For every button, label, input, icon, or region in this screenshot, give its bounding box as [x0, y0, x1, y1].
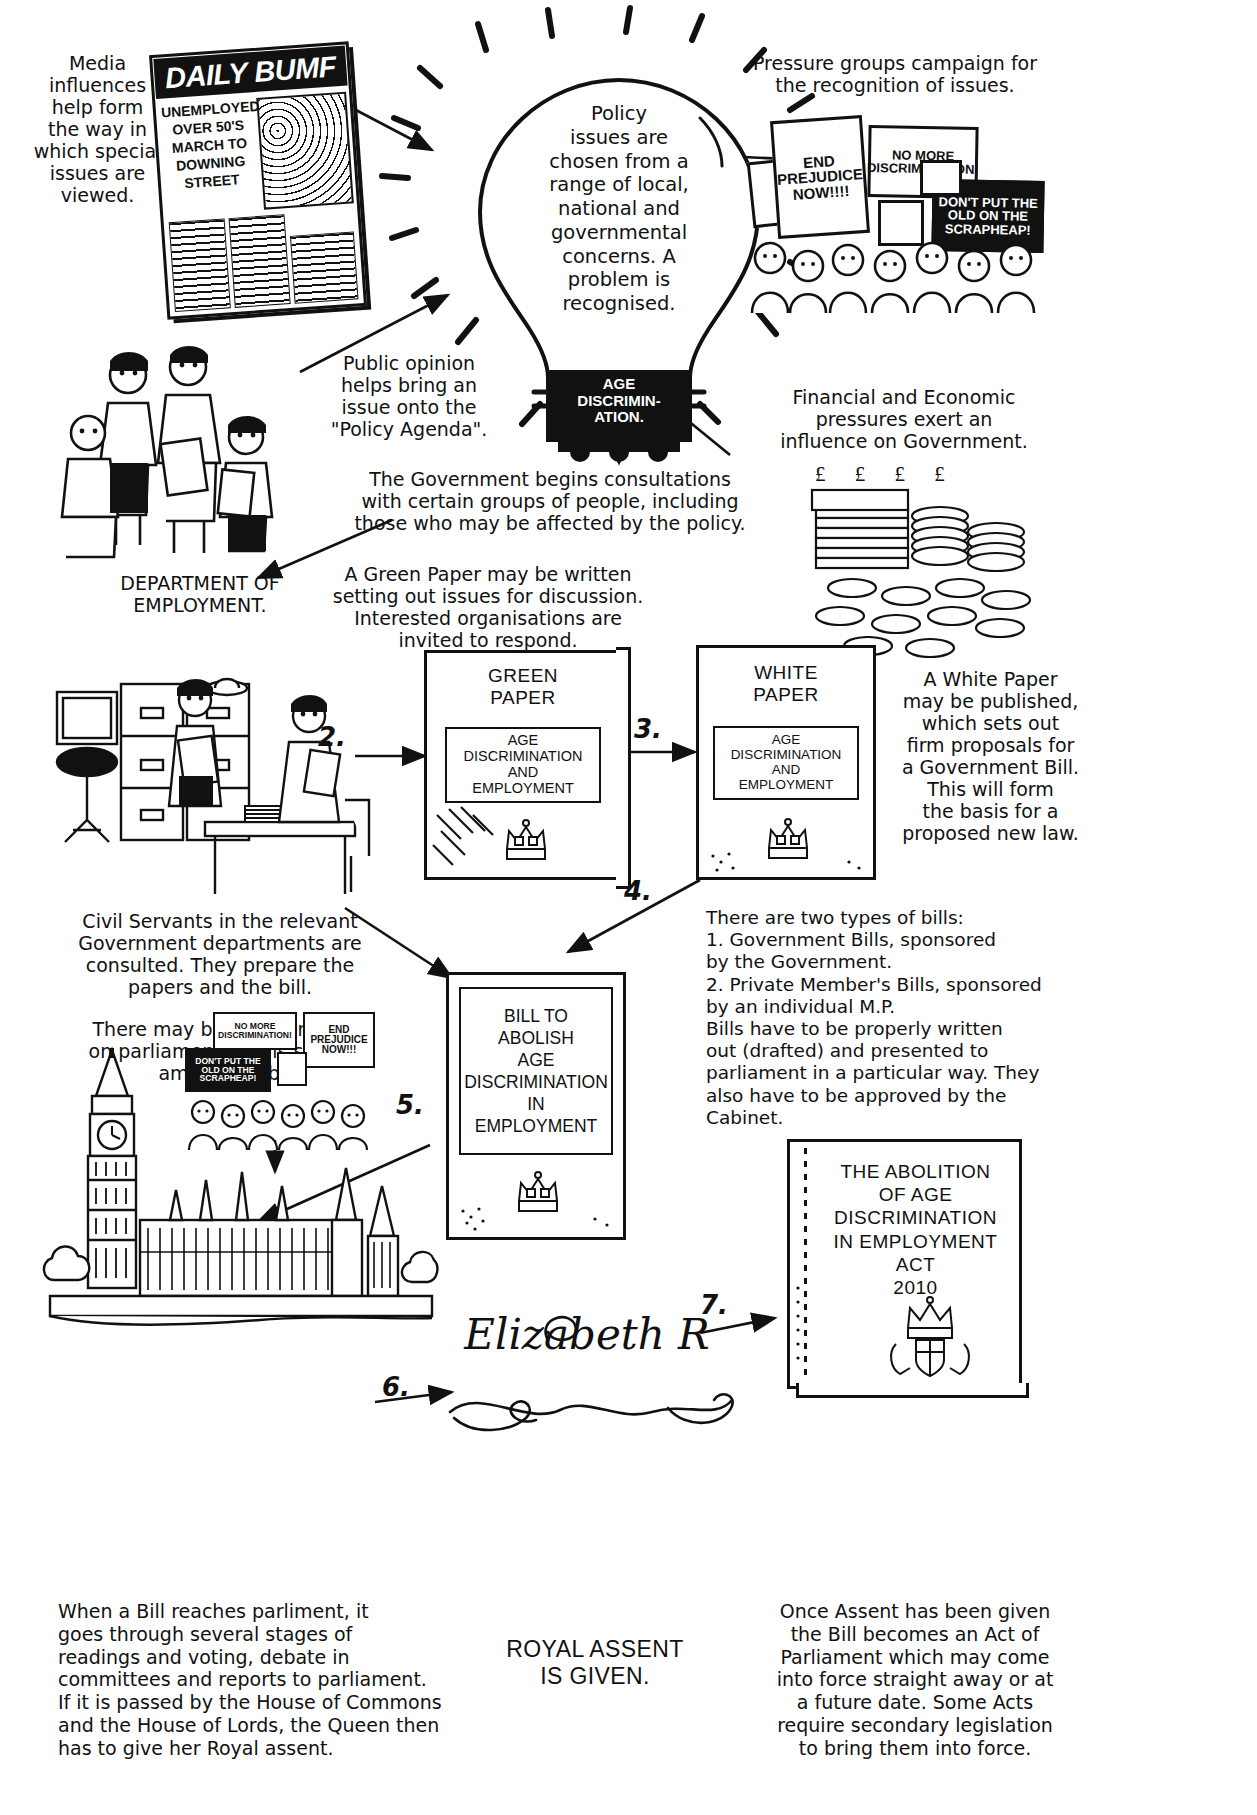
- signature-text: Elizabeth R: [462, 1310, 712, 1359]
- act-page-edge: [796, 1383, 1029, 1398]
- bill-title: BILL TO ABOLISH AGE DISCRIMINATION IN EM…: [459, 987, 613, 1155]
- green-paper-page-edge: [616, 647, 631, 889]
- step-number-1: 1.: [626, 418, 654, 448]
- crown-emblem-green-paper: [427, 805, 625, 885]
- annotation-green-paper: A Green Paper may be written setting out…: [320, 563, 656, 651]
- lightbulb-body-text: Policy issues are chosen from a range of…: [500, 102, 738, 316]
- step-number-3: 3.: [634, 714, 662, 744]
- annotation-parliament-stages: When a Bill reaches parliment, it goes t…: [58, 1600, 488, 1760]
- document-white-paper: WHITE PAPER AGE DISCRIMINATION AND EMPLO…: [696, 645, 876, 880]
- crown-emblem-bill: [449, 1161, 629, 1241]
- step-number-6: 6.: [382, 1372, 410, 1402]
- annotation-financial-pressures: Financial and Economic pressures exert a…: [770, 386, 1038, 452]
- white-paper-title: WHITE PAPER: [699, 662, 873, 705]
- label-department-of-employment: DEPARTMENT OF EMPLOYMENT.: [95, 572, 305, 616]
- green-paper-title: GREEN PAPER: [427, 665, 619, 708]
- annotation-civil-servants: Civil Servants in the relevant Governmen…: [60, 910, 380, 998]
- step-number-4: 4.: [624, 876, 652, 906]
- parliament-illustration: [40, 1030, 440, 1360]
- act-spine: [804, 1148, 807, 1380]
- annotation-types-of-bills: There are two types of bills: 1. Governm…: [706, 907, 1106, 1129]
- protest-crowd-top: END PREJUDICE NOW!!!! NO MORE DISCRIMINA…: [750, 108, 1040, 313]
- people-group-illustration: [60, 345, 310, 575]
- money-illustration: [810, 488, 1040, 668]
- annotation-consultations: The Government begins consultations with…: [340, 468, 760, 534]
- document-bill: BILL TO ABOLISH AGE DISCRIMINATION IN EM…: [446, 972, 626, 1240]
- civil-servants-illustration: [55, 680, 375, 910]
- lightbulb-base-label: AGE DISCRIMIN- ATION.: [548, 372, 690, 426]
- document-act: THE ABOLITION OF AGE DISCRIMINATION IN E…: [787, 1139, 1022, 1389]
- white-paper-subject: AGE DISCRIMINATION AND EMPLOYMENT: [713, 726, 859, 800]
- step-number-2: 2.: [318, 722, 346, 752]
- annotation-pressure-groups: Pressure groups campaign for the recogni…: [740, 52, 1050, 96]
- annotation-white-paper: A White Paper may be published, which se…: [878, 668, 1103, 844]
- document-green-paper: GREEN PAPER AGE DISCRIMINATION AND EMPLO…: [424, 650, 622, 880]
- annotation-public-opinion: Public opinion helps bring an issue onto…: [300, 352, 518, 440]
- crown-emblem-white-paper: [699, 804, 879, 884]
- caption-royal-assent: ROYAL ASSENT IS GIVEN.: [455, 1636, 735, 1689]
- annotation-after-assent: Once Assent has been given the Bill beco…: [760, 1600, 1070, 1760]
- act-title: THE ABOLITION OF AGE DISCRIMINATION IN E…: [818, 1160, 1013, 1299]
- royal-arms-emblem-act: [790, 1282, 1025, 1392]
- crowd-figures-top: [750, 108, 1040, 313]
- flowchart-canvas: Media influences help form the way in wh…: [0, 0, 1257, 1815]
- green-paper-subject: AGE DISCRIMINATION AND EMPLOYMENT: [445, 727, 601, 803]
